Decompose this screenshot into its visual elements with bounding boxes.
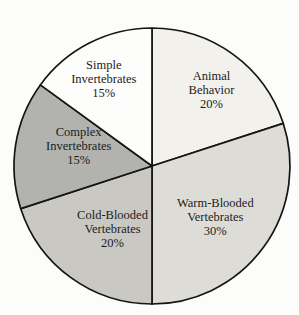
pie-chart-figure: AnimalBehavior20%Warm-BloodedVertebrates… — [0, 0, 299, 315]
pie-chart: AnimalBehavior20%Warm-BloodedVertebrates… — [0, 0, 299, 315]
